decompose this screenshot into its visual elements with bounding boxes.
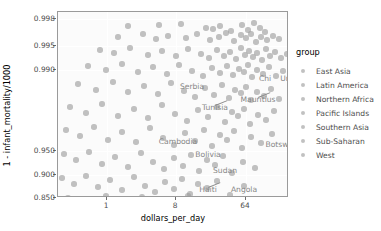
data-point bbox=[125, 89, 130, 94]
data-point bbox=[65, 195, 70, 197]
data-point bbox=[189, 68, 194, 73]
legend-item: West bbox=[296, 148, 381, 162]
data-point bbox=[83, 110, 88, 115]
data-point bbox=[145, 115, 150, 120]
data-point bbox=[284, 51, 288, 56]
data-point bbox=[73, 157, 78, 162]
data-point bbox=[270, 33, 275, 38]
data-point bbox=[269, 131, 274, 136]
data-point bbox=[194, 31, 199, 36]
data-point bbox=[230, 72, 235, 77]
data-point bbox=[241, 106, 246, 111]
legend-items: East AsiaLatin AmericaNorthern AfricaPac… bbox=[296, 64, 381, 162]
data-point bbox=[211, 92, 216, 97]
data-point bbox=[86, 149, 91, 154]
data-point bbox=[198, 51, 203, 56]
legend-title: group bbox=[296, 47, 381, 57]
data-point bbox=[278, 55, 283, 60]
data-point bbox=[139, 194, 144, 197]
data-point bbox=[119, 187, 124, 192]
data-point bbox=[209, 143, 214, 148]
data-point bbox=[273, 73, 278, 78]
data-point bbox=[185, 193, 190, 197]
data-point bbox=[272, 49, 277, 54]
data-point bbox=[75, 81, 80, 86]
data-point bbox=[217, 70, 222, 75]
data-point bbox=[159, 48, 164, 53]
legend-dot-icon bbox=[301, 125, 306, 130]
legend-dot-icon bbox=[301, 139, 306, 144]
data-point bbox=[249, 74, 254, 79]
y-axis-title: 1 - infant_mortality/1000 bbox=[0, 0, 14, 231]
data-point bbox=[221, 53, 226, 58]
data-point bbox=[235, 113, 240, 118]
y-tick-label: 0.995 bbox=[15, 41, 55, 50]
legend-item-label: Sub-Saharan bbox=[316, 137, 365, 146]
data-point bbox=[251, 20, 256, 25]
data-point bbox=[150, 64, 155, 69]
data-point bbox=[200, 73, 205, 78]
data-point bbox=[168, 80, 173, 85]
data-point bbox=[268, 86, 273, 91]
data-point bbox=[91, 124, 96, 129]
legend-item-label: Latin America bbox=[316, 81, 369, 90]
data-point bbox=[196, 168, 201, 173]
legend-item-label: Pacific Islands bbox=[316, 109, 369, 118]
data-point bbox=[223, 30, 228, 35]
data-point bbox=[103, 193, 108, 197]
data-point bbox=[205, 114, 210, 119]
data-point bbox=[138, 150, 143, 155]
data-point bbox=[239, 145, 244, 150]
data-point bbox=[264, 37, 269, 42]
data-point bbox=[243, 84, 248, 89]
data-point bbox=[99, 161, 104, 166]
data-point bbox=[99, 101, 104, 106]
data-point bbox=[216, 34, 221, 39]
point-label: Chi bbox=[259, 74, 271, 83]
data-point bbox=[258, 34, 263, 39]
legend-key-swatch bbox=[296, 111, 310, 116]
data-point bbox=[232, 87, 237, 92]
legend-dot-icon bbox=[301, 83, 306, 88]
legend: group East AsiaLatin AmericaNorthern Afr… bbox=[296, 47, 381, 162]
data-point bbox=[214, 47, 219, 52]
data-point bbox=[156, 22, 161, 27]
data-point bbox=[201, 127, 206, 132]
data-point bbox=[258, 140, 263, 145]
data-point bbox=[83, 173, 88, 178]
data-point bbox=[247, 121, 252, 126]
x-axis-title: dollars_per_day bbox=[57, 213, 289, 223]
data-point bbox=[241, 69, 246, 74]
point-label: Sudan bbox=[213, 166, 237, 175]
data-point bbox=[180, 163, 185, 168]
gridline-horizontal bbox=[58, 175, 287, 176]
data-point bbox=[179, 176, 184, 181]
legend-item: Sub-Saharan bbox=[296, 134, 381, 148]
data-point bbox=[131, 174, 136, 179]
legend-key-swatch bbox=[296, 97, 310, 102]
data-point bbox=[227, 49, 232, 54]
x-tick-label: 1 bbox=[91, 201, 121, 210]
legend-dot-icon bbox=[301, 153, 306, 158]
legend-item-label: Southern Asia bbox=[316, 123, 369, 132]
point-label: Tunisia bbox=[202, 103, 228, 112]
legend-key-swatch bbox=[296, 69, 310, 74]
data-point bbox=[231, 38, 236, 43]
legend-item-label: Northern Africa bbox=[316, 95, 374, 104]
data-point bbox=[239, 22, 244, 27]
data-point bbox=[173, 53, 178, 58]
data-point bbox=[245, 62, 250, 67]
data-point bbox=[217, 132, 222, 137]
legend-dot-icon bbox=[301, 69, 306, 74]
legend-item: Northern Africa bbox=[296, 92, 381, 106]
data-point bbox=[176, 62, 181, 67]
data-point bbox=[71, 181, 76, 186]
point-label: Angola bbox=[231, 185, 257, 194]
data-point bbox=[203, 25, 208, 30]
data-point bbox=[172, 111, 177, 116]
x-tick-mark bbox=[106, 197, 107, 200]
point-label: Haiti bbox=[199, 185, 217, 194]
data-point bbox=[222, 119, 227, 124]
x-tick-label: 64 bbox=[230, 201, 260, 210]
data-point bbox=[164, 71, 169, 76]
